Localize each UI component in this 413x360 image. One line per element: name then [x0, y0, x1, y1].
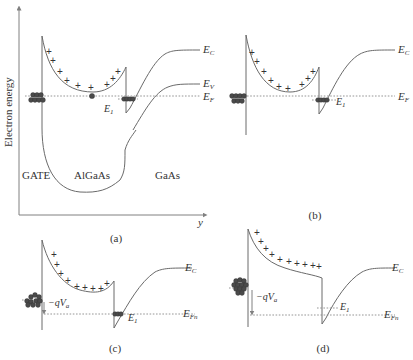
svg-text:+: + — [57, 66, 63, 77]
label-ec: EC — [202, 43, 215, 57]
svg-text:+: + — [269, 249, 275, 260]
valence-band — [133, 84, 200, 130]
svg-text:+: + — [64, 75, 70, 86]
svg-text:+: + — [58, 268, 64, 279]
label-ec: EC — [184, 261, 197, 275]
gate-electrons — [230, 94, 247, 104]
svg-text:+: + — [310, 66, 316, 77]
caption-b: (b) — [309, 209, 322, 222]
svg-text:+: + — [74, 281, 80, 292]
region-label-gaas: GaAs — [155, 169, 180, 181]
label-voltage: −qVa — [48, 297, 70, 310]
panel-a: Electron energy y + + + + + + + + + — [2, 8, 215, 245]
label-voltage: −qVa — [256, 291, 278, 304]
svg-text:+: + — [254, 56, 260, 67]
caption-d: (d) — [317, 342, 330, 355]
gate-electrons — [232, 278, 249, 296]
gate-electrons — [25, 293, 43, 308]
panel-c: + + + + + + + + + −qVa E1 EC EFn (c) — [22, 240, 198, 355]
svg-text:+: + — [261, 66, 267, 77]
label-e1: E1 — [103, 103, 114, 116]
panel-d: + + + + + + + + + + −qVa E1 EC EFn (d) — [229, 227, 404, 355]
svg-text:+: + — [75, 80, 81, 91]
svg-text:+: + — [90, 283, 96, 294]
label-ec: EC — [391, 261, 404, 275]
label-ef: EF — [397, 90, 410, 104]
label-e1: E1 — [335, 96, 346, 109]
svg-text:+: + — [286, 256, 292, 267]
donor-ions: + + + + + + + + + — [46, 46, 121, 93]
conduction-band-offset — [322, 278, 326, 324]
trapped-electron — [89, 93, 94, 98]
label-efn: EFn — [383, 308, 399, 322]
algaas-valence-band — [42, 128, 136, 192]
2deg-electrons — [113, 312, 124, 317]
region-label-gate: GATE — [22, 169, 50, 181]
gate-electrons — [29, 93, 46, 103]
2deg-electrons — [316, 98, 330, 103]
conduction-band-gaas — [323, 50, 395, 108]
svg-text:+: + — [316, 261, 322, 272]
y-axis-label: Electron energy — [2, 77, 14, 147]
donor-ions: + + + + + + + + + — [51, 249, 110, 294]
svg-text:+: + — [294, 258, 300, 269]
svg-text:+: + — [277, 254, 283, 265]
conduction-band-offset — [114, 281, 118, 328]
svg-text:+: + — [268, 75, 274, 86]
svg-text:+: + — [104, 278, 110, 289]
svg-text:+: + — [276, 81, 282, 92]
label-e1: E1 — [127, 312, 138, 325]
conduction-band-offset — [319, 67, 323, 114]
svg-text:+: + — [88, 82, 94, 93]
conduction-band-gaas — [130, 50, 200, 108]
svg-text:+: + — [82, 282, 88, 293]
caption-a: (a) — [110, 232, 123, 245]
2deg-electrons — [122, 97, 136, 102]
donor-ions: + + + + + + + + + + — [254, 227, 322, 272]
svg-text:+: + — [50, 55, 56, 66]
label-e1: E1 — [339, 301, 350, 314]
conduction-band-offset — [126, 67, 130, 113]
label-ec: EC — [397, 43, 410, 57]
panel-b: + + + + + + + + + E1 EC EF (b) — [230, 35, 410, 222]
label-ev: EV — [202, 77, 215, 91]
label-ef: EF — [202, 90, 215, 104]
svg-text:+: + — [302, 259, 308, 270]
x-axis-label: y — [197, 216, 203, 228]
heterostructure-band-diagram: Electron energy y + + + + + + + + + — [0, 0, 413, 360]
region-label-algaas: AlGaAs — [74, 169, 110, 181]
svg-text:+: + — [285, 83, 291, 94]
label-efn: EFn — [182, 307, 198, 321]
caption-c: (c) — [109, 342, 122, 355]
svg-text:+: + — [65, 275, 71, 286]
svg-text:+: + — [115, 66, 121, 77]
